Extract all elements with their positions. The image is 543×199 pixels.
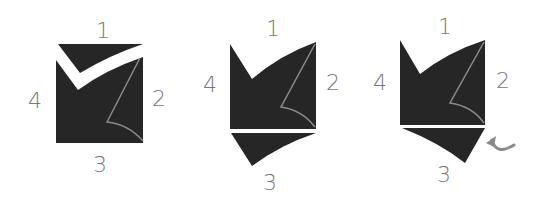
label-top: 1: [438, 14, 452, 39]
label-bottom: 3: [93, 152, 107, 177]
paper-bottom-flap: [231, 133, 316, 166]
label-right: 2: [152, 86, 166, 111]
label-top: 1: [96, 18, 110, 43]
label-bottom: 3: [437, 162, 451, 187]
label-bottom: 3: [263, 170, 277, 195]
paper-shape: [400, 40, 485, 125]
label-left: 4: [28, 88, 42, 113]
label-right: 2: [326, 70, 340, 95]
step-2: 1 2 3 4: [203, 16, 340, 195]
label-right: 2: [496, 68, 510, 93]
label-left: 4: [203, 72, 217, 97]
paper-bottom-flap: [402, 128, 485, 163]
label-top: 1: [266, 16, 280, 41]
step-1: 1 2 3 4: [28, 18, 166, 177]
label-left: 4: [373, 70, 387, 95]
folding-diagram: 1 2 3 4 1 2 3 4 1 2 3 4: [0, 0, 543, 199]
rotate-arrow-icon: [492, 140, 514, 149]
step-3: 1 2 3 4: [373, 14, 514, 187]
